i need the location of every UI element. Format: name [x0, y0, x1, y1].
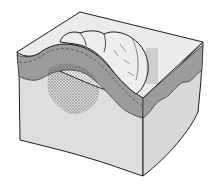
skin-block-illustration	[0, 0, 211, 184]
skin-diagram	[0, 0, 211, 184]
